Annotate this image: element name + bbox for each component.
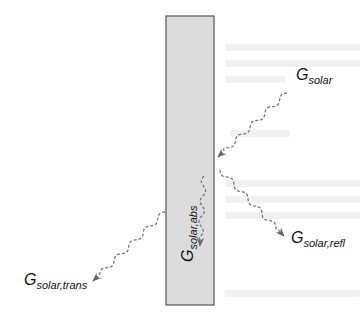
arrow-incident	[218, 93, 287, 157]
label-main: G	[291, 229, 303, 246]
label-reflected: Gsolar,refl	[291, 230, 345, 249]
label-sub: solar,refl	[303, 237, 345, 249]
label-sub: solar,abs	[187, 206, 199, 250]
label-main: G	[179, 250, 196, 262]
label-main: G	[296, 66, 308, 83]
arrow-reflected	[220, 170, 284, 236]
arrow-transmitted	[93, 212, 165, 281]
label-transmitted: Gsolar,trans	[24, 272, 87, 291]
label-incident: Gsolar	[296, 67, 332, 86]
label-sub: solar	[308, 74, 332, 86]
label-sub: solar,trans	[36, 279, 87, 291]
label-main: G	[24, 271, 36, 288]
label-absorbed: Gsolar,abs	[180, 206, 199, 262]
